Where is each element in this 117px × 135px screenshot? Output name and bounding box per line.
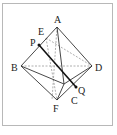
edge-C-F — [57, 84, 64, 100]
label-D: D — [95, 62, 102, 73]
label-Q: Q — [78, 85, 86, 96]
edge-B-F — [21, 66, 57, 100]
octahedron-diagram: A E P B D Q C F — [0, 0, 117, 135]
label-F: F — [53, 103, 59, 114]
edge-D-C — [64, 66, 92, 84]
label-A: A — [54, 14, 62, 25]
label-E: E — [38, 26, 44, 37]
edge-B-C — [21, 66, 64, 84]
label-P: P — [30, 37, 36, 48]
edge-A-C — [57, 27, 64, 84]
label-B: B — [11, 62, 18, 73]
label-C: C — [71, 95, 78, 106]
edge-A-D — [57, 27, 92, 66]
point-P — [38, 44, 41, 47]
